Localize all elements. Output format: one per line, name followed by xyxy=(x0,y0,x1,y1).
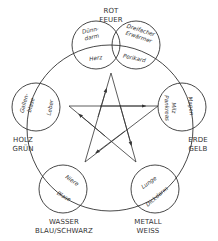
earth-label-color: GELB xyxy=(189,145,208,153)
wood-label-color: GRÜN xyxy=(12,144,33,153)
fire-label-element: FEUER xyxy=(99,16,122,24)
earth-label-element: ERDE xyxy=(188,136,208,144)
organ-pericardium: Perikard xyxy=(122,53,146,64)
organ-large-intestine: Dickdarm xyxy=(144,185,169,207)
fire-label-color: ROT xyxy=(104,7,120,15)
organ-stomach: Magen xyxy=(186,96,195,116)
water-label-element: WASSER xyxy=(49,218,79,226)
generation-cycle-circle xyxy=(27,45,193,211)
organ-lung: Lunge xyxy=(140,175,159,191)
metal-label-color: WEISS xyxy=(137,227,160,235)
metal-label-element: METALL xyxy=(134,218,161,226)
organ-heart: Herz xyxy=(89,54,104,62)
metal-circle xyxy=(131,165,179,213)
organ-spleen-1: Milz xyxy=(171,102,177,114)
control-cycle-star xyxy=(69,73,158,162)
organ-liver: Leber xyxy=(46,99,55,116)
organ-spleen-2: Pankreas xyxy=(164,95,171,121)
water-circle xyxy=(39,165,87,213)
wood-label-element: HOLZ xyxy=(13,136,33,144)
organ-kidney: Niere xyxy=(64,174,80,188)
water-label-color: BLAU/SCHWARZ xyxy=(35,227,93,235)
five-elements-diagram: ROT FEUER HOLZ GRÜN ERDE GELB WASSER BLA… xyxy=(0,0,218,241)
